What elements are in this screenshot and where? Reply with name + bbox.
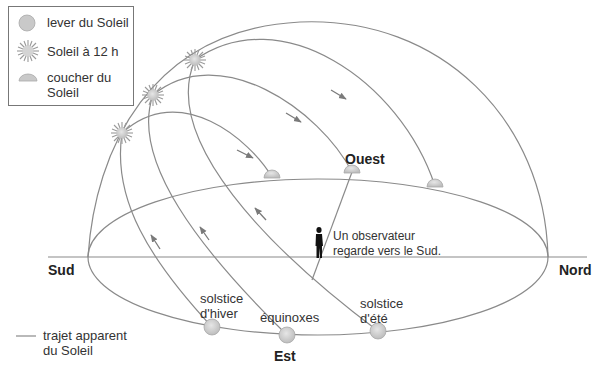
sunrise-icon: [17, 13, 37, 33]
legend-sunset-label: coucher du Soleil: [47, 70, 111, 100]
observer-label: Un observateur regarde vers le Sud.: [333, 229, 441, 259]
winter-solstice-label: solstice d'hiver: [200, 291, 243, 321]
winter-path-rise: [120, 133, 212, 327]
sunset-icon: [427, 179, 443, 187]
summer-solstice-label: solstice d'été: [360, 296, 403, 326]
summer-path-set: [195, 39, 435, 186]
sunrise-icon: [279, 327, 295, 343]
sunset-icon: [17, 71, 39, 83]
direction-south-label: Sud: [48, 263, 74, 278]
arrow-icon: [151, 235, 160, 249]
legend-noon-label: Soleil à 12 h: [47, 44, 119, 59]
arrow-icon: [200, 227, 209, 240]
direction-west-label: Ouest: [345, 152, 385, 167]
noon-sun-icon: [111, 122, 133, 144]
legend-box: lever du Soleil Soleil à 12 h coucher du…: [8, 6, 134, 106]
direction-north-label: Nord: [559, 263, 592, 278]
sunset-icon: [264, 170, 280, 178]
legend-sunrise-label: lever du Soleil: [47, 15, 129, 30]
sunrise-icon: [204, 319, 220, 335]
path-line-icon: [16, 334, 38, 338]
noon-sun-icon: [17, 39, 41, 63]
equinox-label: équinoxes: [260, 310, 319, 325]
noon-sun-icon: [184, 49, 206, 71]
winter-path-set: [122, 112, 272, 177]
observer-icon: [316, 227, 324, 258]
direction-east-label: Est: [274, 349, 296, 364]
arrow-icon: [237, 150, 253, 158]
observer-west-line: [312, 172, 352, 280]
arrow-icon: [286, 113, 301, 122]
arrow-icon: [331, 90, 346, 99]
noon-sun-icon: [142, 84, 164, 106]
arrow-icon: [255, 208, 266, 220]
meridian-arc: [88, 22, 548, 257]
path-legend-label: trajet apparent du Soleil: [43, 328, 127, 358]
